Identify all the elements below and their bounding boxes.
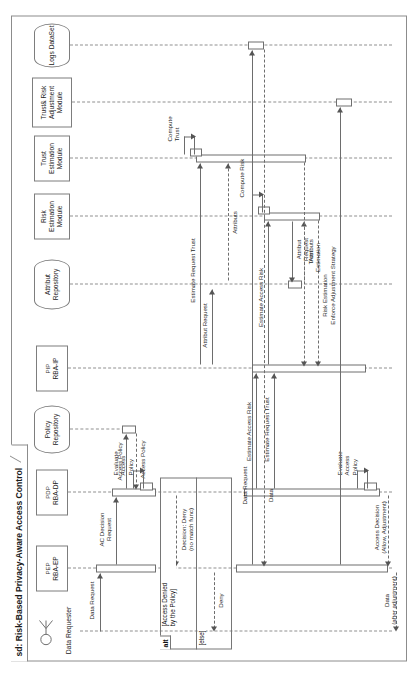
activation-riskmod-1 <box>264 212 320 220</box>
activation-pep-1 <box>96 564 156 572</box>
lifeline-line-policyrepo <box>70 428 130 429</box>
lifeline-stereotype-pip: PIP <box>44 363 51 373</box>
diagram-title: sd: Risk-Based Privacy-Aware Access Cont… <box>11 444 28 661</box>
message-arrow-m20 <box>364 467 369 473</box>
message-label-m13: Attribut Request <box>201 288 208 362</box>
lifeline-head-tramod: Trust& Risk Adjustment Module <box>32 77 72 127</box>
lifeline-head-pip: PIP RBA-IP <box>36 345 68 391</box>
lifeline-head-requester <box>38 615 68 647</box>
message-label-m12: Estimate Request Trust <box>189 205 196 335</box>
lifeline-head-logs: Logs DataSet <box>34 23 70 67</box>
lifeline-head-trustmod: Trust Estimation Module <box>34 135 70 181</box>
diagram-stage: sd: Risk-Based Privacy-Aware Access Cont… <box>0 0 420 675</box>
message-label-m16: Attributs <box>231 189 238 255</box>
message-arrow-m2 <box>113 497 119 502</box>
combined-fragment-guard-1: [Access Denied by the Policy] <box>161 553 176 627</box>
combined-fragment-separator <box>196 477 197 649</box>
lifeline-line-requester <box>80 630 392 631</box>
activation-trustmod-1 <box>196 154 306 162</box>
message-label-m23: Enforce Adjustment Strategy <box>329 195 336 375</box>
message-label-m5: Evaluate Access Policy <box>112 431 134 475</box>
activation-tramod-1 <box>336 98 352 106</box>
message-arrow-m23 <box>337 107 343 112</box>
lifeline-head-riskmod: Risk Estimation Module <box>34 193 70 239</box>
message-label-m24: Data Request <box>241 445 248 525</box>
lifeline-label-pip: RBA-IP <box>52 357 60 379</box>
message-line-m21 <box>388 495 389 563</box>
lifeline-head-attrrepo: Attribut Repository <box>34 259 70 309</box>
message-label-m2: AC Decision Request <box>98 495 113 563</box>
message-arrow-m1 <box>97 573 103 578</box>
lifeline-line-attrrepo <box>70 283 392 284</box>
message-line-m16 <box>228 163 229 280</box>
lifeline-head-policyrepo: Policy Repository <box>34 405 70 453</box>
message-line-m1 <box>100 573 101 631</box>
message-label-m19: Trust Estimation <box>307 231 322 283</box>
lifeline-head-pdp: PDP RBA-DP <box>36 469 68 515</box>
lifeline-label-requester: Data Requester <box>65 601 72 659</box>
lifeline-label-attrrepo: Attribut Repository <box>44 260 60 308</box>
message-arrow-m12 <box>197 163 203 168</box>
actor-icon <box>38 615 64 647</box>
sequence-diagram: sd: Risk-Based Privacy-Aware Access Cont… <box>0 0 420 675</box>
lifeline-label-tramod: Trust& Risk Adjustment Module <box>40 80 64 124</box>
lifeline-label-pep: RBA-EP <box>52 556 60 581</box>
message-line-m13 <box>212 289 213 364</box>
message-line-m8 <box>256 373 257 488</box>
lifeline-line-logs <box>70 44 392 45</box>
message-arrow-m9 <box>271 373 277 378</box>
activation-pip-1 <box>252 364 366 372</box>
message-label-m21: Access Decision (Allow, Adjustment) <box>373 485 388 569</box>
message-arrow-m8 <box>253 373 259 378</box>
message-line-m25 <box>264 49 265 563</box>
message-line-m19 <box>304 162 305 363</box>
lifeline-label-policyrepo: Policy Repository <box>44 406 60 452</box>
message-arrow-m16 <box>225 163 231 168</box>
combined-fragment-operator: alt <box>160 635 171 649</box>
lifeline-label-riskmod: Risk Estimation Module <box>40 196 64 236</box>
message-line-m23 <box>340 107 341 564</box>
message-line-m24 <box>252 50 253 564</box>
combined-fragment-guard-2: [else] <box>198 604 206 646</box>
message-label-m17: Compute Risk <box>238 141 245 197</box>
message-line-m14 <box>292 221 293 279</box>
message-line-m10 <box>268 221 269 364</box>
message-label-m22: Data (after adjustment) <box>383 569 398 631</box>
message-arrow-m10 <box>265 221 271 226</box>
activation-logs-1 <box>248 41 264 49</box>
message-arrow-m19 <box>301 361 307 366</box>
message-arrow-m11 <box>315 361 321 366</box>
lifeline-label-trustmod: Trust Estimation Module <box>40 138 64 178</box>
lifeline-stereotype-pep: PEP <box>44 562 51 574</box>
message-arrow-m24 <box>249 50 255 55</box>
message-line-m2 <box>116 497 117 564</box>
message-label-m25: Data <box>267 470 274 520</box>
lifeline-stereotype-pdp: PDP <box>44 486 51 499</box>
lifeline-head-pep: PEP RBA-EP <box>36 545 68 591</box>
message-label-m18: Compute Trust <box>166 97 181 141</box>
message-arrow-m18 <box>191 133 196 139</box>
message-label-m11: Risk Estimation <box>321 245 328 345</box>
message-arrow-m13 <box>209 289 215 294</box>
message-arrow-m5 <box>140 467 145 473</box>
message-arrow-m25 <box>261 561 267 566</box>
message-arrow-m14 <box>289 277 295 282</box>
activation-pep-2 <box>236 564 388 572</box>
lifeline-label-logs: Logs DataSet <box>48 25 56 65</box>
message-label-m1: Data Request <box>88 571 95 629</box>
lifeline-label-pdp: RBA-DP <box>52 480 60 505</box>
